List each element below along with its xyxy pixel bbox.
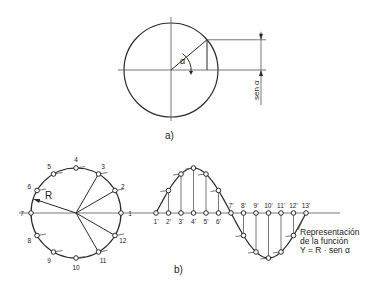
projection-point-label: 3' [179,218,184,225]
radius-ray [76,213,99,252]
projection-point-label: 10' [264,202,272,209]
axis-point [216,211,221,216]
axis-point [154,211,159,216]
radius-label: R [45,190,52,201]
sine-construction-diagram: α sen α a) 1234567891011121'2'3'4'5'6'7'… [0,0,376,285]
curve-point [179,172,184,177]
circle-point-label: 10 [72,264,80,271]
circle-point [74,166,79,171]
circle-point-label: 12 [119,237,127,244]
projection-point-label: 4' [191,218,196,225]
circle-point [96,172,101,177]
curve-point [279,250,284,255]
circle-point [51,172,56,177]
circle-point [113,233,118,238]
circle-point-label: 5 [47,163,51,170]
projection-point-label: 7' [229,202,234,209]
annotation-line-3: Y = R · sen α [300,245,350,255]
projection-point-label: 13' [302,202,310,209]
radius-ray [76,191,115,214]
projection-point-label: 1' [154,218,159,225]
axis-point [241,211,246,216]
projection-point-label: 2' [166,218,171,225]
curve-point [166,188,171,193]
circle-point-label: 9 [47,257,51,264]
curve-point [216,188,221,193]
circle-point [96,250,101,255]
circle-point [51,250,56,255]
curve-point [266,256,271,261]
axis-point [166,211,171,216]
figure-a: α sen α a) [118,17,266,141]
circle-point-label: 2 [121,183,125,190]
radius-ray [76,174,99,213]
circle-point-label: 6 [27,183,31,190]
projection-point-label: 12' [289,202,297,209]
figure-b: 1234567891011121'2'3'4'5'6'7'8'9'10'11'1… [19,156,360,275]
circle-point [74,256,79,261]
circle-point-label: 11 [100,257,107,264]
axis-point [191,211,196,216]
axis-point [204,211,209,216]
radius-ray [76,213,115,236]
circle-point [35,233,40,238]
curve-point [291,233,296,238]
angle-arrow-icon [189,71,193,75]
projection-point-label: 6' [216,218,221,225]
circle-point [35,188,40,193]
angle-label: α [180,56,185,66]
projection-point-label: 9' [254,202,259,209]
caption-b: b) [174,264,183,275]
circle-point-label: 3 [101,163,105,170]
projection-point-label: 8' [241,202,246,209]
radius-r-line [37,200,76,213]
caption-a: a) [165,130,174,141]
curve-point [254,250,259,255]
axis-point [179,211,184,216]
circle-point [119,211,124,216]
sine-dimension-label: sen α [252,80,261,100]
circle-point-label: 8 [27,237,31,244]
axis-point [279,211,284,216]
projection-point-label: 5' [204,218,209,225]
curve-point [241,233,246,238]
axis-point [291,211,296,216]
axis-point [254,211,259,216]
curve-point [204,172,209,177]
axis-point [304,211,309,216]
dimension-arrow-bottom-icon [259,70,263,76]
circle-point-label: 1 [128,210,132,217]
dimension-arrow-top-icon [259,34,263,40]
circle-point-label: 4 [74,156,78,163]
radius-line-a [171,40,207,70]
circle-point-label: 7 [20,210,24,217]
circle-point [29,211,34,216]
axis-point [229,211,234,216]
curve-point [191,166,196,171]
radius-arrow-icon [33,199,40,203]
axis-point [266,211,271,216]
projection-point-label: 11' [277,202,285,209]
circle-point [113,188,118,193]
